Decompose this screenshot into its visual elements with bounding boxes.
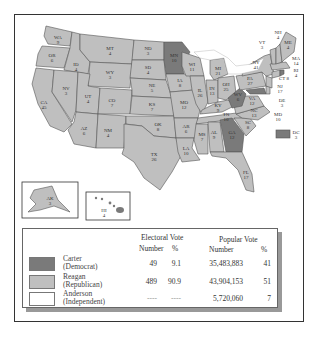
svg-text:4: 4 — [295, 73, 298, 78]
svg-text:3: 3 — [261, 45, 264, 50]
ev-percent: ---- — [163, 294, 181, 303]
svg-text:13: 13 — [210, 91, 216, 96]
svg-text:45: 45 — [42, 105, 48, 110]
state-hi — [116, 207, 124, 213]
carter-swatch — [29, 257, 55, 271]
pv-number: 5,720,060 — [197, 294, 243, 303]
anderson-swatch — [29, 292, 55, 306]
candidate-party: (Independent) — [63, 297, 105, 306]
svg-text:10: 10 — [184, 151, 190, 156]
svg-text:12: 12 — [250, 101, 256, 106]
svg-text:10: 10 — [276, 117, 282, 122]
svg-text:17: 17 — [244, 175, 250, 180]
reagan-swatch — [29, 275, 55, 289]
candidate-party: (Republican) — [63, 280, 102, 289]
svg-text:21: 21 — [216, 71, 222, 76]
electoral-vote-header: Electoral Vote — [141, 233, 183, 242]
svg-text:4: 4 — [277, 35, 280, 40]
ev-number: ---- — [141, 294, 157, 303]
svg-text:26: 26 — [152, 157, 158, 162]
state-dc — [276, 130, 290, 138]
legend-row-anderson: Anderson(Independent) ---- ---- 5,720,06… — [29, 290, 273, 310]
svg-text:12: 12 — [182, 105, 188, 110]
svg-text:25: 25 — [224, 87, 230, 92]
svg-text:14: 14 — [294, 61, 300, 66]
svg-text:10: 10 — [172, 58, 178, 63]
pv-percent: 7 — [257, 294, 271, 303]
pv-percent: 41 — [257, 259, 271, 268]
svg-text:17: 17 — [278, 89, 284, 94]
ev-number: 49 — [141, 259, 157, 268]
hawaii-inset — [86, 192, 130, 220]
svg-text:10: 10 — [224, 117, 230, 122]
us-electoral-map: WA9 OR6 CA45 ID4 NV3 MT4 WY3 UT4 AZ6 CO7… — [14, 14, 304, 224]
svg-text:3: 3 — [281, 103, 284, 108]
state-nj — [266, 76, 272, 88]
results-legend: Electoral Vote Popular Vote Number % Num… — [22, 228, 278, 308]
ev-number-header: Number — [139, 244, 164, 253]
pv-number: 35,483,883 — [197, 259, 243, 268]
svg-text:3: 3 — [295, 135, 298, 140]
ev-number: 489 — [141, 277, 157, 286]
pv-percent: 51 — [257, 277, 271, 286]
svg-text:11: 11 — [190, 67, 195, 72]
popular-vote-header: Popular Vote — [219, 235, 258, 244]
pv-number: 43,904,153 — [197, 277, 243, 286]
pv-percent-header: % — [261, 245, 267, 254]
candidate-party: (Democrat) — [63, 262, 98, 271]
pv-number-header: Number — [209, 245, 234, 254]
svg-text:41: 41 — [254, 65, 260, 70]
svg-text:27: 27 — [248, 81, 254, 86]
svg-text:12: 12 — [230, 135, 236, 140]
ev-percent: 9.1 — [163, 259, 181, 268]
ev-percent: 90.9 — [163, 277, 181, 286]
svg-text:13: 13 — [252, 113, 258, 118]
svg-text:26: 26 — [198, 93, 204, 98]
svg-text:CT 8: CT 8 — [279, 76, 290, 81]
ev-percent-header: % — [172, 244, 178, 253]
